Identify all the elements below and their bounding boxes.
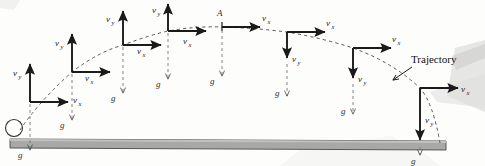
vy-sub-2: y <box>60 43 64 50</box>
position-4-near-apex: v y v x g <box>152 4 206 89</box>
vx-label-4: v <box>183 36 187 46</box>
vy-label-3: v <box>106 14 110 24</box>
vx-sub-2: x <box>90 78 94 85</box>
vy-sub-6: y <box>297 59 301 66</box>
vx-sub-8: x <box>466 89 470 96</box>
vy-label-4: v <box>152 5 156 15</box>
vx-label-1: v <box>73 95 77 105</box>
vx-sub-7: x <box>397 39 401 46</box>
vx-sub-3: x <box>142 51 146 58</box>
vy-sub-7: y <box>363 79 367 86</box>
projectile-motion-figure: v y v x g v y v x g v y v x g <box>0 0 485 166</box>
g-label-3: g <box>111 93 116 103</box>
vx-sub-6: x <box>331 23 335 30</box>
position-6-descending: v y v x g <box>275 18 335 98</box>
vy-sub-3: y <box>111 19 115 26</box>
diagram-canvas: v y v x g v y v x g v y v x g <box>0 0 485 166</box>
vy-sub-4: y <box>157 10 161 17</box>
position-5-apex: A v x g <box>210 8 271 86</box>
trajectory-label: Trajectory <box>411 53 457 65</box>
vx-sub-5: x <box>267 18 271 25</box>
g-label-8: g <box>411 156 416 166</box>
vx-label-8: v <box>461 84 465 94</box>
vy-label-6: v <box>292 54 296 64</box>
g-label-4: g <box>156 79 161 89</box>
vy-label-7: v <box>358 74 362 84</box>
vy-label-8: v <box>425 115 429 125</box>
trajectory-callout: Trajectory <box>393 53 457 80</box>
g-label-5: g <box>210 76 215 86</box>
g-label-6: g <box>275 88 280 98</box>
g-label-7: g <box>341 106 346 116</box>
vx-label-2: v <box>85 73 89 83</box>
vx-sub-4: x <box>188 41 192 48</box>
vx-label-5: v <box>262 13 266 23</box>
vy-sub-8: y <box>430 120 434 127</box>
vy-label-1: v <box>13 68 17 78</box>
vx-label-3: v <box>137 46 141 56</box>
vx-sub-1: x <box>78 100 82 107</box>
vx-label-7: v <box>392 34 396 44</box>
trajectory-curve <box>20 27 440 143</box>
vy-sub-1: y <box>18 73 22 80</box>
ground-bar <box>10 139 446 150</box>
apex-point-label: A <box>216 8 223 18</box>
vx-label-6: v <box>326 18 330 28</box>
g-label-1: g <box>18 150 23 160</box>
projectile-ball <box>6 120 23 137</box>
position-2-ascending: v y v x g <box>55 34 110 130</box>
position-7-descending: v y v x g <box>341 34 401 116</box>
g-label-2: g <box>60 120 65 130</box>
position-3-ascending: v y v x g <box>106 11 161 103</box>
vy-label-2: v <box>55 38 59 48</box>
